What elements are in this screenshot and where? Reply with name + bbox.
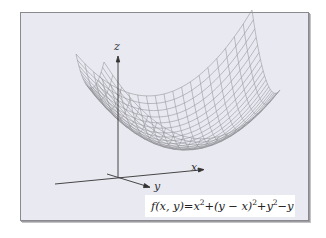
function-formula: f(x, y)=x2+(y − x)2+y2−y (151, 198, 293, 213)
wireframe-line (82, 45, 258, 123)
z-axis-arrowhead (116, 56, 119, 62)
x-axis-arrowhead (198, 168, 204, 172)
y-axis-label: y (154, 180, 160, 193)
x-axis (55, 170, 200, 184)
z-axis-label: z (114, 40, 120, 53)
y-axis-arrowhead (144, 184, 151, 188)
wireframe-line (103, 67, 279, 142)
x-axis-label: x (191, 161, 197, 174)
wireframe-surface (76, 10, 280, 150)
wireframe-line (76, 10, 252, 96)
wireframe-line (77, 20, 253, 104)
wireframe-line (83, 53, 259, 129)
